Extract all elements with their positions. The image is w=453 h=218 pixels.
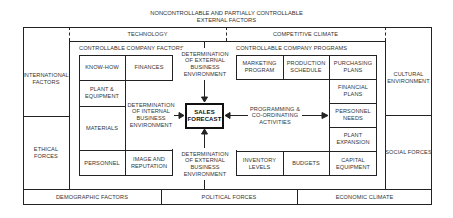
coordination-label: PROGRAMMING & CO-ORDINATING ACTIVITIES [249, 104, 301, 127]
sales-forecast-label: SALES FORECAST [185, 103, 224, 129]
arrow-head-left [225, 113, 230, 119]
external-determination-bottom: DETERMINATION OF EXTERNAL BUSINESS ENVIR… [182, 148, 228, 180]
external-determination-top: DETERMINATION OF EXTERNAL BUSINESS ENVIR… [182, 48, 228, 80]
arrow-head-down [202, 97, 208, 102]
connector-arrows [0, 0, 453, 218]
arrow-head-up [202, 129, 208, 134]
arrow-head-right [179, 113, 184, 119]
arrow-head-right-2 [322, 113, 328, 119]
